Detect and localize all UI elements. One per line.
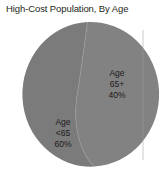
slice-label-65-plus: Age 65+ 40%: [94, 68, 140, 101]
slice-label-under-65-line2: <65: [40, 128, 86, 139]
chart-figure: High-Cost Population, By Age Age 65+ 40%…: [0, 0, 164, 173]
slice-label-65-plus-line1: Age: [94, 68, 140, 79]
slice-label-under-65: Age <65 60%: [40, 117, 86, 150]
slice-label-under-65-line1: Age: [40, 117, 86, 128]
slice-label-65-plus-value: 40%: [94, 90, 140, 101]
slice-label-under-65-value: 60%: [40, 139, 86, 150]
pie-chart-plot-area[interactable]: Age 65+ 40% Age <65 60%: [0, 16, 164, 173]
page-title: High-Cost Population, By Age: [6, 3, 128, 15]
slice-label-65-plus-line2: 65+: [94, 79, 140, 90]
